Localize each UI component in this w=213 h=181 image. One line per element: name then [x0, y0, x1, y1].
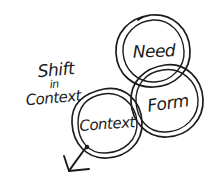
- hand-drawn-diagram: Need Form Context Shift in Context: [0, 0, 213, 181]
- shift-annotation: Shift in Context: [22, 58, 83, 110]
- context-label: Context: [79, 113, 137, 135]
- arrow-shaft: [69, 146, 87, 171]
- form-label: Form: [146, 90, 190, 116]
- arrow-head: [64, 156, 89, 171]
- arrow-down-left-icon: [64, 145, 89, 171]
- diagram-canvas: Need Form Context Shift in Context: [0, 0, 213, 181]
- need-label: Need: [132, 40, 176, 61]
- need-circle: Need: [116, 15, 190, 87]
